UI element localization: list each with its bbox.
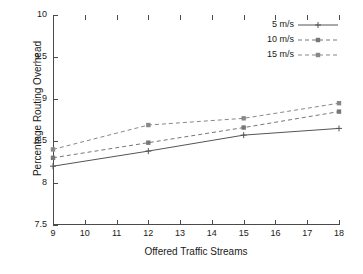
data-point-marker (145, 148, 151, 154)
x-tick-mark (339, 220, 340, 225)
y-axis-label: Percentage Routing Overhead (32, 9, 43, 209)
x-tick-label: 17 (295, 228, 319, 238)
data-point-marker (241, 125, 245, 129)
data-point-marker (336, 125, 342, 131)
x-tick-label: 15 (232, 228, 256, 238)
data-point-marker (51, 156, 55, 160)
data-point-marker (241, 116, 245, 120)
data-point-marker (241, 132, 247, 138)
data-point-marker (316, 37, 320, 41)
legend-sample-dashed (298, 49, 338, 61)
data-point-marker (337, 101, 341, 105)
series-0 (50, 125, 342, 169)
data-point-marker (315, 22, 321, 28)
legend-item-0: 5 m/s (246, 17, 338, 32)
x-tick-label: 13 (168, 228, 192, 238)
y-tick-mark (53, 225, 58, 226)
legend-label: 15 m/s (267, 50, 294, 59)
series-2 (51, 101, 341, 152)
x-axis-label: Offered Traffic Streams (53, 246, 339, 257)
data-point-marker (50, 163, 56, 169)
series-line (53, 112, 339, 158)
x-tick-label: 16 (263, 228, 287, 238)
x-tick-label: 18 (327, 228, 351, 238)
x-tick-label: 9 (41, 228, 65, 238)
series-1 (51, 109, 341, 160)
chart-figure: 7.588.599.510 9101112131415161718 Offere… (0, 0, 363, 274)
legend-label: 10 m/s (267, 35, 294, 44)
legend-label: 5 m/s (272, 20, 294, 29)
legend-item-1: 10 m/s (246, 32, 338, 47)
data-point-marker (146, 123, 150, 127)
chart-legend: 5 m/s10 m/s15 m/s (246, 14, 338, 62)
series-line (53, 103, 339, 149)
data-point-marker (316, 52, 320, 56)
data-point-marker (146, 140, 150, 144)
x-tick-label: 11 (105, 228, 129, 238)
series-line (53, 128, 339, 166)
legend-item-2: 15 m/s (246, 47, 338, 62)
legend-sample-dashed (298, 34, 338, 46)
x-tick-label: 14 (200, 228, 224, 238)
data-point-marker (51, 147, 55, 151)
x-tick-mark-top (339, 15, 340, 20)
legend-sample-solid (298, 19, 338, 31)
x-tick-label: 12 (136, 228, 160, 238)
x-tick-label: 10 (73, 228, 97, 238)
data-point-marker (337, 109, 341, 113)
